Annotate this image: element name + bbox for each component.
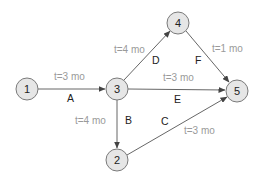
edge-c-label: C [161,115,169,127]
node-2-label: 2 [114,154,120,166]
edge-e-time: t=3 mo [163,72,194,83]
node-2: 2 [106,149,128,171]
edge-b-label: B [125,114,132,126]
edge-a-label: A [67,92,74,104]
node-1-label: 1 [24,83,30,95]
node-4: 4 [167,12,189,34]
node-3: 3 [106,78,128,100]
edge-d-time: t=4 mo [114,44,145,55]
edge-c-time: t=3 mo [184,125,215,136]
edge-a-time: t=3 mo [54,71,85,82]
network-diagram: t=3 mo t=4 mo t=3 mo t=4 mo t=3 mo t=1 m… [0,0,262,181]
edge-b-time: t=4 mo [75,115,106,126]
edge-d-label: D [152,54,160,66]
node-5-label: 5 [234,85,240,97]
node-3-label: 3 [114,83,120,95]
node-1: 1 [16,78,38,100]
edge-e [128,89,225,90]
edge-e-label: E [174,93,181,105]
edge-f-time: t=1 mo [212,43,243,54]
node-4-label: 4 [175,17,181,29]
edge-f-label: F [195,54,201,66]
node-5: 5 [226,80,248,102]
